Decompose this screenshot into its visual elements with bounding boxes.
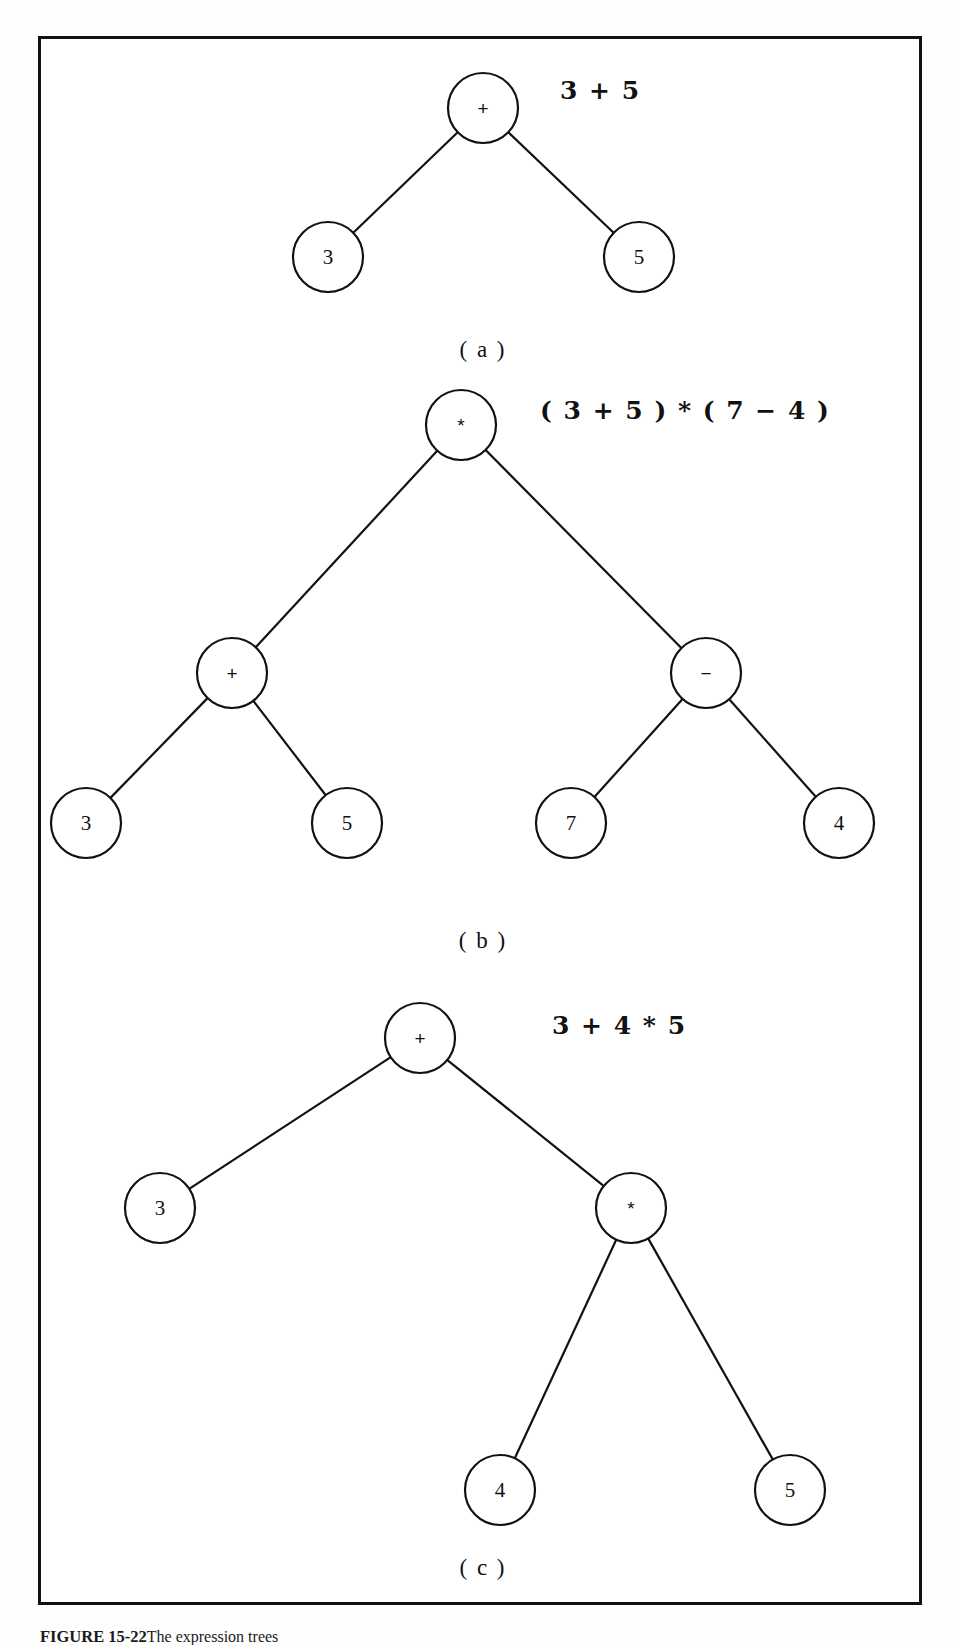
tree-node-label-b-minus: − — [700, 664, 711, 683]
tree-node-label-c-3: 3 — [155, 1198, 166, 1219]
part-label-tree-c: ( c ) — [459, 1555, 506, 1581]
part-label-tree-b: ( b ) — [459, 928, 507, 954]
tree-node-label-a-left: 3 — [323, 247, 334, 268]
tree-node-label-b-7: 7 — [566, 813, 577, 834]
tree-node-label-b-5: 5 — [342, 813, 353, 834]
tree-node-label-c-star: * — [627, 1199, 634, 1218]
figure-caption: FIGURE 15-22The expression trees — [40, 1627, 920, 1645]
tree-node-label-b-plus: + — [226, 664, 237, 683]
part-label-tree-a: ( a ) — [459, 337, 506, 363]
figure-caption-text: The expression trees — [147, 1628, 279, 1645]
tree-node-label-b-4: 4 — [834, 813, 845, 834]
figure-page: +353 + 5( a )*+−3574( 3 + 5 ) * ( 7 − 4 … — [0, 0, 958, 1645]
tree-node-label-a-root: + — [477, 99, 488, 118]
tree-node-label-c-root: + — [414, 1029, 425, 1048]
tree-node-label-c-4: 4 — [495, 1480, 506, 1501]
expression-text-tree-b: ( 3 + 5 ) * ( 7 − 4 ) — [540, 396, 830, 425]
tree-node-label-a-right: 5 — [634, 247, 645, 268]
expression-text-tree-c: 3 + 4 * 5 — [552, 1011, 687, 1040]
tree-node-label-b-3: 3 — [81, 813, 92, 834]
figure-caption-number: FIGURE 15-22 — [40, 1627, 147, 1645]
figure-frame-border — [38, 36, 922, 1605]
tree-node-label-c-5: 5 — [785, 1480, 796, 1501]
tree-node-label-b-root: * — [457, 416, 464, 435]
expression-text-tree-a: 3 + 5 — [560, 76, 641, 105]
